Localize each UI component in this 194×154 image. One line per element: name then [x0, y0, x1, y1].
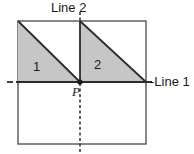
line-2-label: Line 2 [51, 1, 86, 14]
geometry-figure: Line 2 -Line 1 P 1 2 [0, 0, 194, 154]
triangle-1-label: 1 [33, 60, 40, 73]
point-p-label: P [72, 85, 80, 98]
line-1-label: -Line 1 [150, 75, 190, 88]
triangle-2-label: 2 [94, 58, 101, 71]
